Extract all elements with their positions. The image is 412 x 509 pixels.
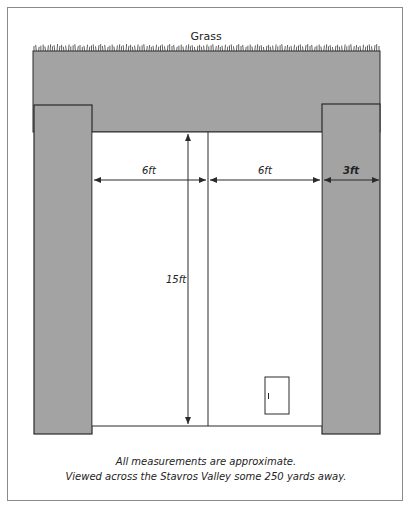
height-label: 15ft	[166, 274, 186, 285]
caption-line-1: All measurements are approximate.	[0, 456, 412, 467]
left-width-label: 6ft	[142, 165, 156, 176]
grass-texture	[34, 44, 379, 51]
left-pillar	[34, 105, 92, 434]
doorway-diagram	[0, 0, 412, 509]
pillar-width-label: 3ft	[343, 165, 359, 176]
right-pillar	[322, 104, 380, 434]
right-width-label: 6ft	[258, 165, 272, 176]
caption-line-2: Viewed across the Stavros Valley some 25…	[0, 471, 412, 482]
